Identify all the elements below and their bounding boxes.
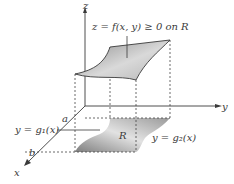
x-axis-label: x bbox=[14, 167, 20, 178]
z-axis-label: z bbox=[82, 0, 89, 11]
bound-a-label: a bbox=[62, 113, 68, 124]
bound-b-label: b bbox=[29, 147, 35, 158]
double-integral-diagram: z y x z = f(x, y) ≥ 0 on R R a b y = g₁(… bbox=[0, 0, 234, 184]
g1-curve-label: y = g₁(x) bbox=[14, 124, 59, 135]
surface-label: z = f(x, y) ≥ 0 on R bbox=[91, 21, 189, 32]
g2-curve-label: y = g₂(x) bbox=[151, 132, 196, 143]
region-label: R bbox=[118, 130, 127, 141]
y-axis-label: y bbox=[221, 101, 228, 112]
surface-f bbox=[75, 40, 170, 80]
